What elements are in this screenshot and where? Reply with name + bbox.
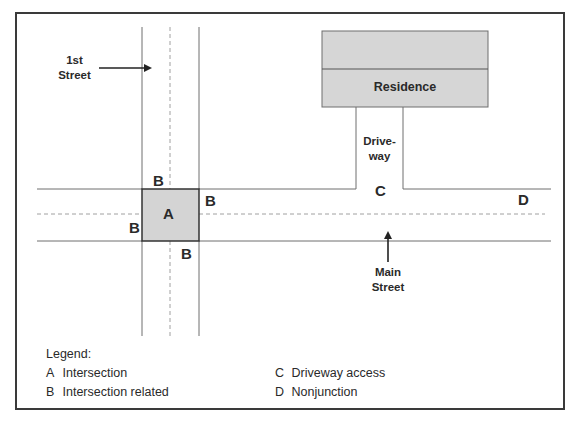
driveway-label: Drive- way xyxy=(356,134,403,164)
legend-key: C xyxy=(275,364,288,383)
first-street-arrow-icon xyxy=(99,64,152,72)
residence-label: Residence xyxy=(322,80,488,94)
driveway-label-line1: Drive- xyxy=(356,134,403,149)
driveway-label-line2: way xyxy=(356,149,403,164)
first-street xyxy=(142,27,199,336)
main-street-label-line2: Street xyxy=(363,280,413,295)
main-street-arrow-icon xyxy=(384,231,392,262)
main-street-label: Main Street xyxy=(363,265,413,295)
legend-item-b: B Intersection related xyxy=(46,383,169,402)
legend-title: Legend: xyxy=(46,345,169,364)
marker-b-bottom: B xyxy=(181,245,192,262)
legend-column-2: C Driveway access D Nonjunction xyxy=(275,364,385,402)
marker-b-right: B xyxy=(205,192,216,209)
residence-building xyxy=(322,31,488,107)
legend-key: D xyxy=(275,383,288,402)
legend-item-d: D Nonjunction xyxy=(275,383,385,402)
first-street-label: 1st Street xyxy=(52,53,97,83)
legend-key: B xyxy=(46,383,59,402)
legend-label: Intersection related xyxy=(62,385,168,399)
first-street-label-line2: Street xyxy=(52,68,97,83)
legend-item-c: C Driveway access xyxy=(275,364,385,383)
legend-label: Driveway access xyxy=(291,366,385,380)
marker-d-nonjunction: D xyxy=(518,191,529,208)
marker-b-left: B xyxy=(129,219,140,236)
marker-b-top: B xyxy=(153,172,164,189)
legend: Legend: A Intersection B Intersection re… xyxy=(46,345,169,402)
legend-label: Intersection xyxy=(62,366,127,380)
legend-item-a: A Intersection xyxy=(46,364,169,383)
marker-c-driveway-access: C xyxy=(375,182,386,199)
main-street xyxy=(37,189,551,241)
first-street-label-line1: 1st xyxy=(52,53,97,68)
legend-key: A xyxy=(46,364,59,383)
main-street-label-line1: Main xyxy=(363,265,413,280)
legend-label: Nonjunction xyxy=(291,385,357,399)
marker-a-intersection: A xyxy=(163,205,174,222)
